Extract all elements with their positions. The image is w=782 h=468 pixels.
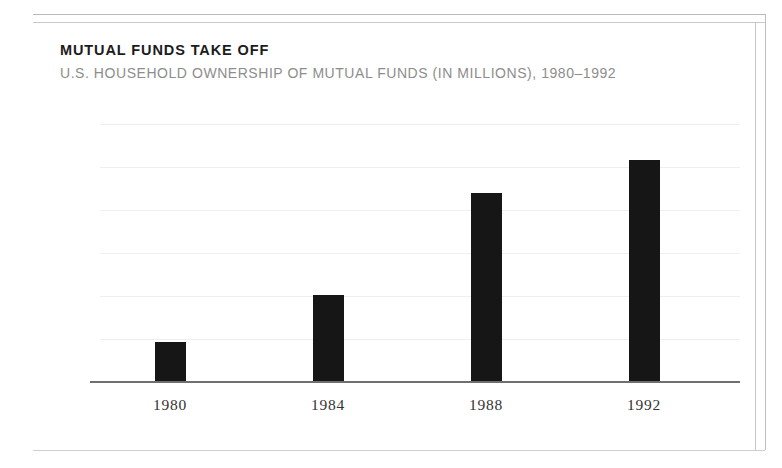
bar-1988 bbox=[471, 193, 502, 381]
bar-1992 bbox=[629, 160, 660, 381]
x-tick-label-1980: 1980 bbox=[153, 396, 187, 414]
bar-1984 bbox=[313, 295, 344, 381]
x-tick-label-1988: 1988 bbox=[469, 396, 503, 414]
x-tick-label-1992: 1992 bbox=[627, 396, 661, 414]
x-tick-label-1984: 1984 bbox=[311, 396, 345, 414]
bar-1980 bbox=[155, 342, 186, 381]
figure-page: MUTUAL FUNDS TAKE OFF U.S. HOUSEHOLD OWN… bbox=[0, 0, 782, 468]
x-axis-tick-labels: 1980 1984 1988 1992 bbox=[100, 396, 740, 420]
plot-area bbox=[100, 124, 740, 381]
gridline-30 bbox=[100, 124, 740, 125]
x-axis-line bbox=[90, 381, 740, 383]
plot-wrapper: 30 25 20 15 10 5 0 1980 1984 1988 1992 bbox=[0, 0, 782, 468]
y-axis-tick-labels: 30 25 20 15 10 5 0 bbox=[0, 0, 86, 468]
